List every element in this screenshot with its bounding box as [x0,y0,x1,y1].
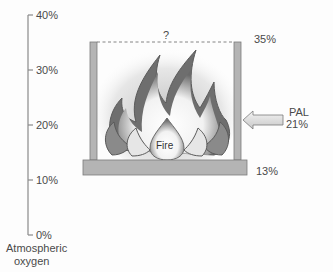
upper-limit-label: 35% [254,33,276,45]
right-post [234,42,241,160]
tick-label-10: 10% [36,174,58,186]
axis-title-line2: oxygen [14,255,49,267]
tick-label-30: 30% [36,64,58,76]
left-post [90,42,97,160]
fire-label: Fire [156,140,173,152]
lower-limit-label: 13% [256,165,278,177]
tick-label-40: 40% [36,9,58,21]
pal-label: PAL [289,106,309,118]
axis-title-line1: Atmospheric [6,242,67,254]
tick-label-20: 20% [36,119,58,131]
base-platform [83,160,247,175]
pal-arrow-icon [243,111,283,129]
tick-label-0: 0% [36,229,52,241]
unknown-upper-label: ? [163,29,169,41]
oxygen-axis [28,15,33,235]
pal-value-label: 21% [286,118,308,130]
